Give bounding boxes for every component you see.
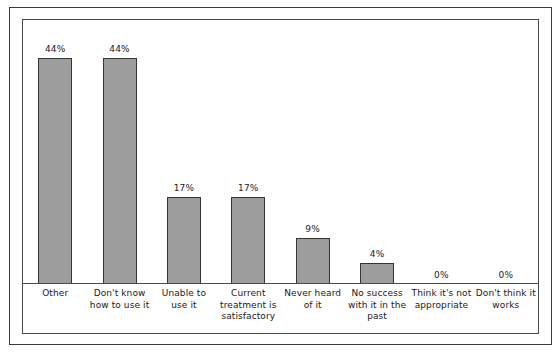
bar-value-label: 17% xyxy=(174,183,195,194)
bar-value-label: 9% xyxy=(305,224,320,235)
category-label: Don't think it works xyxy=(474,288,538,311)
bar-column[interactable]: 0% xyxy=(424,20,458,284)
bar-rect[interactable] xyxy=(38,58,72,284)
bar-column[interactable]: 9% xyxy=(296,20,330,284)
category-label: No success with it in the past xyxy=(345,288,409,323)
category-label: Current treatment is satisfactory xyxy=(216,288,280,323)
bar-value-label: 17% xyxy=(238,183,259,194)
bar-column[interactable]: 44% xyxy=(38,20,72,284)
bar-slot: 17% xyxy=(216,20,280,284)
bar-value-label: 0% xyxy=(434,270,449,281)
bar-rect[interactable] xyxy=(103,58,137,284)
bar-column[interactable]: 0% xyxy=(489,20,523,284)
bar-column[interactable]: 4% xyxy=(360,20,394,284)
bar-slot: 9% xyxy=(281,20,345,284)
bar-slot: 0% xyxy=(409,20,473,284)
bar-rect[interactable] xyxy=(167,197,201,284)
category-label: Don't know how to use it xyxy=(87,288,151,311)
category-label: Other xyxy=(23,288,87,300)
bar-rect[interactable] xyxy=(296,238,330,284)
bar-column[interactable]: 17% xyxy=(167,20,201,284)
bar-slot: 44% xyxy=(87,20,151,284)
bar-column[interactable]: 17% xyxy=(231,20,265,284)
bar-slot: 44% xyxy=(23,20,87,284)
category-label: Unable to use it xyxy=(152,288,216,311)
bar-rect[interactable] xyxy=(360,263,394,284)
category-label: Think it's not appropriate xyxy=(409,288,473,311)
bar-slot: 4% xyxy=(345,20,409,284)
bar-value-label: 4% xyxy=(370,249,385,260)
bar-value-label: 44% xyxy=(45,44,66,55)
bar-value-label: 44% xyxy=(109,44,130,55)
bar-slot: 17% xyxy=(152,20,216,284)
category-label: Never heard of it xyxy=(281,288,345,311)
chart-figure: 44% 44% 17% 17% 9% xyxy=(0,0,560,356)
bar-column[interactable]: 44% xyxy=(103,20,137,284)
category-labels-row: Other Don't know how to use it Unable to… xyxy=(23,288,538,332)
bar-rect[interactable] xyxy=(231,197,265,284)
bar-slot: 0% xyxy=(474,20,538,284)
plot-area: 44% 44% 17% 17% 9% xyxy=(23,20,538,284)
x-axis-baseline xyxy=(23,283,538,284)
bar-value-label: 0% xyxy=(498,270,513,281)
